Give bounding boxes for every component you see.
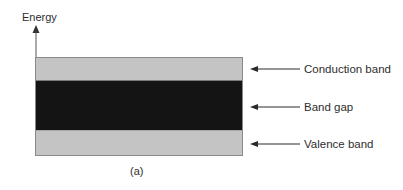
band-diagram xyxy=(0,0,403,190)
band-gap-arrowhead-icon xyxy=(250,104,258,110)
conduction-arrowhead-icon xyxy=(250,66,258,72)
energy-axis-label: Energy xyxy=(22,10,57,24)
conduction-band xyxy=(36,58,243,81)
conduction-band-label: Conduction band xyxy=(304,62,391,76)
valence-band xyxy=(36,131,243,156)
band-gap-label: Band gap xyxy=(304,100,353,114)
valence-arrowhead-icon xyxy=(250,141,258,147)
figure-caption: (a) xyxy=(130,164,143,178)
band-gap xyxy=(36,81,243,131)
energy-axis-arrowhead-icon xyxy=(33,25,40,33)
valence-band-label: Valence band xyxy=(304,137,373,151)
